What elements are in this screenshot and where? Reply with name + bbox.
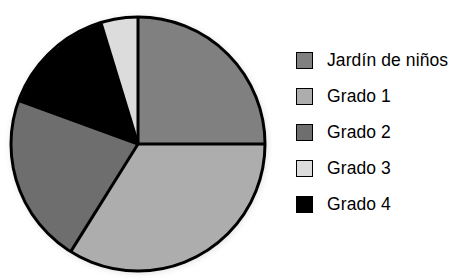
legend-item[interactable]: Grado 1 <box>296 84 476 108</box>
pie-chart-figure: Jardín de niñosGrado 1Grado 2Grado 3Grad… <box>0 0 476 280</box>
legend-swatch-grado-3 <box>296 160 313 177</box>
legend-item-label: Grado 1 <box>327 86 391 106</box>
legend-swatch-grado-4 <box>296 196 313 213</box>
legend-item-label: Grado 3 <box>327 158 391 178</box>
legend-item[interactable]: Grado 3 <box>296 156 476 180</box>
pie-chart-svg <box>0 0 280 280</box>
pie-chart-plot-area <box>0 0 280 280</box>
legend-item[interactable]: Jardín de niños <box>296 48 476 72</box>
legend-item[interactable]: Grado 2 <box>296 120 476 144</box>
legend-item-label: Jardín de niños <box>327 50 448 70</box>
chart-legend: Jardín de niñosGrado 1Grado 2Grado 3Grad… <box>296 48 476 216</box>
pie-slice[interactable] <box>138 18 264 144</box>
legend-swatch-grado-2 <box>296 124 313 141</box>
legend-item[interactable]: Grado 4 <box>296 192 476 216</box>
legend-item-label: Grado 2 <box>327 122 391 142</box>
legend-item-label: Grado 4 <box>327 194 391 214</box>
legend-swatch-jardin-de-ninos <box>296 52 313 69</box>
legend-swatch-grado-1 <box>296 88 313 105</box>
